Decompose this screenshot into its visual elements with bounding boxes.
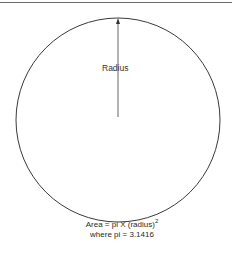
area-formula-text: Area = pi X (radius): [86, 220, 155, 229]
exponent: 2: [155, 218, 158, 224]
radius-label: Radius: [102, 63, 128, 73]
circle-diagram: [0, 0, 232, 253]
area-formula: Area = pi X (radius)2: [6, 220, 232, 230]
pi-definition: where pi = 3.1416: [6, 230, 232, 240]
arrowhead-icon: [116, 18, 120, 24]
